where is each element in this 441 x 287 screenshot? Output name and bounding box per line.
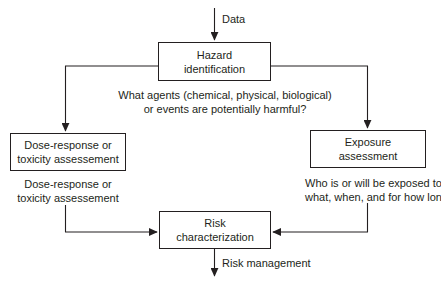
caption-hazard-line-1: What agents (chemical, physical, biologi… <box>105 88 345 102</box>
caption-dose-line-2: toxicity assessement <box>8 191 128 205</box>
node-dose-line-1: Dose-response or <box>24 138 111 152</box>
risk-assessment-flowchart: Hazard identification Dose-response or t… <box>0 0 441 287</box>
caption-dose-response: Dose-response or toxicity assessement <box>8 177 128 205</box>
caption-hazard-line-2: or events are potentially harmful? <box>105 102 345 116</box>
node-exposure-assessment: Exposure assessment <box>310 130 426 168</box>
node-hazard-line-2: identification <box>184 62 245 76</box>
node-hazard-identification: Hazard identification <box>158 42 271 81</box>
node-risk-line-2: characterization <box>176 230 254 244</box>
edge-label-risk-management: Risk management <box>222 256 311 270</box>
node-risk-characterization: Risk characterization <box>159 211 271 249</box>
node-hazard-line-1: Hazard <box>197 48 232 62</box>
edge-exposure-to-risk <box>273 203 368 232</box>
caption-exposure-line-1: Who is or will be exposed to <box>305 176 437 190</box>
edge-dose-to-risk <box>66 205 158 232</box>
node-exposure-line-2: assessment <box>339 149 398 163</box>
node-risk-line-1: Risk <box>204 216 225 230</box>
caption-exposure-assessment: Who is or will be exposed to what, when,… <box>305 176 437 204</box>
caption-exposure-line-2: what, when, and for how long? <box>305 190 437 204</box>
node-dose-line-2: toxicity assessement <box>17 152 118 166</box>
node-exposure-line-1: Exposure <box>345 135 391 149</box>
caption-dose-line-1: Dose-response or <box>8 177 128 191</box>
node-dose-response: Dose-response or toxicity assessement <box>10 133 126 171</box>
caption-hazard-identification: What agents (chemical, physical, biologi… <box>105 88 345 116</box>
edge-label-data: Data <box>222 12 245 26</box>
